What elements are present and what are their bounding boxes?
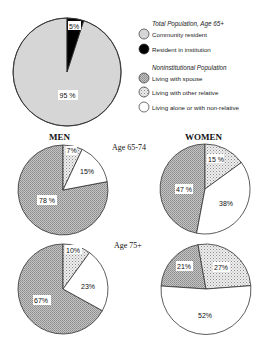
men-75-plus-pie: 10% 23% 67% [18, 244, 108, 334]
m2-alone-pct: 23% [81, 283, 95, 290]
legend-spouse-label: Living with spouse [152, 75, 203, 82]
m2-spouse-pct: 67% [34, 297, 48, 304]
w1-alone-pct: 38% [219, 200, 233, 207]
legend-institution-swatch [139, 44, 149, 54]
legend-alone-swatch [139, 102, 149, 112]
men-header: MEN [49, 132, 70, 142]
w2-alone-pct: 52% [198, 312, 212, 319]
legend-total-title: Total Population, Age 65+ [152, 20, 224, 28]
age-65-74-label: Age 65-74 [112, 143, 146, 152]
m1-alone-pct: 15% [80, 168, 94, 175]
women-65-74-pie: 15 % 38% 47 % [160, 144, 250, 234]
w2-relative-pct: 27% [214, 264, 228, 271]
w1-spouse-pct: 47 % [176, 186, 192, 193]
total-population-pie: 5% 95 % [13, 18, 121, 126]
legend-noninst-title: Noninstitutional Population [152, 64, 227, 72]
legend: Total Population, Age 65+ Community resi… [139, 20, 240, 112]
m1-relative-pct: 7% [67, 147, 77, 154]
alone-slice [161, 286, 251, 335]
legend-relative-swatch [139, 87, 149, 97]
legend-community-label: Community resident [152, 31, 207, 38]
m1-spouse-pct: 78 % [39, 197, 55, 204]
legend-spouse-swatch [139, 73, 149, 83]
legend-relative-label: Living with other relative [152, 89, 219, 96]
total-institution-pct: 5% [69, 23, 79, 30]
legend-alone-label: Living alone or with non-relative [152, 104, 240, 111]
women-75-plus-pie: 21% 27% 52% [161, 244, 251, 335]
figure: 5% 95 % Total Population, Age 65+ Commun… [0, 0, 263, 350]
total-community-pct: 95 % [60, 92, 76, 99]
age-75-plus-label: Age 75+ [114, 241, 142, 250]
w1-relative-pct: 15 % [208, 156, 224, 163]
legend-institution-label: Resident in institution [152, 46, 211, 53]
legend-community-swatch [139, 29, 149, 39]
men-65-74-pie: 7% 15% 78 % [18, 145, 108, 235]
w2-spouse-pct: 21% [177, 263, 191, 270]
m2-relative-pct: 10% [66, 247, 80, 254]
women-header: WOMEN [185, 132, 222, 142]
